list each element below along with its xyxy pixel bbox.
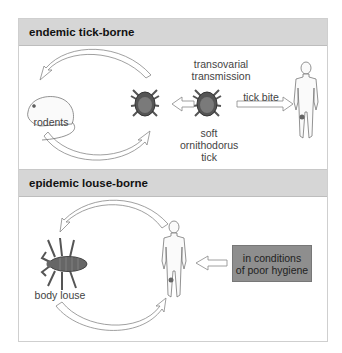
human-figure-icon — [294, 62, 318, 138]
human-figure-icon — [162, 221, 186, 297]
hygiene-label: in conditions of poor hygiene — [236, 252, 308, 276]
arrow-left-icon — [196, 256, 227, 270]
rodents-label: rodents — [25, 116, 77, 128]
tick-icon — [193, 90, 221, 116]
tick-bite-label: tick bite — [236, 91, 286, 103]
bite-mark-icon — [300, 115, 305, 120]
louse-icon — [42, 238, 87, 290]
soft-tick-label: soft ornithodorus tick — [180, 127, 238, 163]
arrow-left-icon — [172, 97, 194, 111]
transovarial-label: transovarial transmission — [186, 58, 256, 82]
bite-mark-icon — [169, 278, 174, 283]
tick-icon — [131, 90, 159, 116]
hygiene-box: in conditions of poor hygiene — [232, 245, 312, 282]
body-louse-label: body louse — [30, 289, 90, 301]
